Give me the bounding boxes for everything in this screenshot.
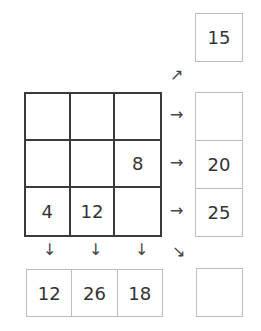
main-diagonal-sum-box[interactable] bbox=[196, 268, 243, 317]
grid-cell-r2c1[interactable] bbox=[26, 141, 71, 188]
anti-diagonal-sum-value: 15 bbox=[208, 27, 231, 48]
row-sum-2[interactable]: 20 bbox=[196, 141, 242, 189]
puzzle-grid: 8 4 12 bbox=[24, 92, 162, 237]
right-arrow-icon: → bbox=[170, 203, 183, 219]
down-arrow-icon: ↓ bbox=[43, 242, 56, 258]
down-arrow-icon: ↓ bbox=[89, 242, 102, 258]
grid-cell-r3c3[interactable] bbox=[115, 188, 160, 235]
right-arrow-icon: → bbox=[170, 107, 183, 123]
row-sum-1[interactable] bbox=[196, 93, 242, 141]
grid-cell-r2c3[interactable]: 8 bbox=[115, 141, 160, 188]
down-right-arrow-icon: ↘ bbox=[172, 244, 185, 260]
column-sum-1[interactable]: 12 bbox=[27, 270, 72, 316]
grid-cell-r1c2[interactable] bbox=[71, 94, 116, 141]
row-sums-column: 20 25 bbox=[195, 92, 243, 237]
grid-cell-r3c1[interactable]: 4 bbox=[26, 188, 71, 235]
grid-cell-r1c3[interactable] bbox=[115, 94, 160, 141]
grid-cell-r1c1[interactable] bbox=[26, 94, 71, 141]
grid-cell-r2c2[interactable] bbox=[71, 141, 116, 188]
column-sums-row: 12 26 18 bbox=[26, 269, 163, 317]
up-right-arrow-icon: ↗ bbox=[170, 67, 183, 83]
column-sum-3[interactable]: 18 bbox=[118, 270, 162, 316]
down-arrow-icon: ↓ bbox=[135, 242, 148, 258]
grid-cell-r3c2[interactable]: 12 bbox=[71, 188, 116, 235]
column-sum-2[interactable]: 26 bbox=[72, 270, 117, 316]
anti-diagonal-sum-box[interactable]: 15 bbox=[195, 13, 243, 62]
row-sum-3[interactable]: 25 bbox=[196, 189, 242, 236]
right-arrow-icon: → bbox=[170, 155, 183, 171]
